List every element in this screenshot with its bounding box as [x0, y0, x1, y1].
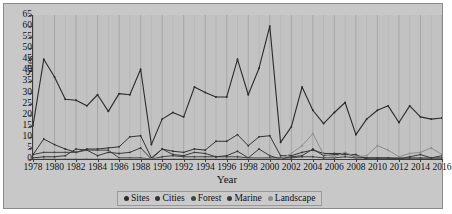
y-tick-mark	[29, 115, 32, 116]
legend-marker-icon	[124, 196, 129, 201]
data-point	[237, 134, 239, 136]
plot-area	[33, 15, 442, 159]
data-point	[183, 151, 185, 153]
legend-label: Sites	[131, 193, 149, 204]
x-tick-label: 1990	[153, 161, 172, 173]
data-point	[172, 112, 174, 114]
legend-marker-icon	[268, 196, 273, 201]
legend-item-forest[interactable]: Forest	[191, 193, 222, 204]
data-point	[194, 86, 196, 88]
data-point	[290, 126, 292, 128]
data-point	[64, 98, 66, 100]
data-point	[75, 148, 77, 150]
data-point	[355, 154, 357, 156]
data-point	[226, 155, 228, 157]
data-point	[312, 156, 314, 158]
data-point	[107, 110, 109, 112]
y-tick-mark	[29, 126, 32, 127]
data-point	[107, 149, 109, 151]
x-tick-mark	[420, 159, 421, 162]
data-point	[355, 134, 357, 136]
x-tick-mark	[33, 159, 34, 162]
y-tick-mark	[29, 59, 32, 60]
x-tick-mark	[270, 159, 271, 162]
data-point	[398, 156, 400, 158]
data-point	[420, 116, 422, 118]
x-tick-label: 2014	[411, 161, 430, 173]
legend-item-sites[interactable]: Sites	[124, 193, 149, 204]
data-point	[161, 148, 163, 150]
x-tick-mark	[119, 159, 120, 162]
legend-item-marine[interactable]: Marine	[227, 193, 261, 204]
data-point	[43, 58, 45, 60]
x-tick-mark	[377, 159, 378, 162]
data-point	[409, 156, 411, 158]
data-point	[301, 145, 303, 147]
x-tick-label: 2008	[346, 161, 365, 173]
data-point	[258, 148, 260, 150]
data-point	[161, 118, 163, 120]
x-tick-label: 2000	[260, 161, 279, 173]
data-point	[118, 93, 120, 95]
data-point	[366, 155, 368, 157]
legend-item-cities[interactable]: Cities	[155, 193, 184, 204]
data-point	[140, 68, 142, 70]
data-point	[312, 148, 314, 150]
data-point	[86, 105, 88, 107]
data-point	[64, 148, 66, 150]
data-point	[409, 105, 411, 107]
x-tick-label: 2004	[303, 161, 322, 173]
data-point	[344, 151, 346, 153]
data-point	[75, 99, 77, 101]
data-point	[64, 151, 66, 153]
data-point	[215, 140, 217, 142]
data-point	[118, 153, 120, 155]
data-point	[161, 156, 163, 158]
x-axis-title: Year	[4, 173, 450, 185]
x-tick-mark	[141, 159, 142, 162]
y-tick-mark	[29, 93, 32, 94]
data-point	[269, 135, 271, 137]
data-point	[226, 140, 228, 142]
x-tick-label: 1988	[131, 161, 150, 173]
data-point	[323, 123, 325, 125]
data-point	[129, 151, 131, 153]
data-point	[237, 58, 239, 60]
y-tick-mark	[29, 81, 32, 82]
legend-marker-icon	[155, 196, 160, 201]
legend-label: Marine	[234, 193, 261, 204]
legend-label: Forest	[198, 193, 222, 204]
data-point	[258, 67, 260, 69]
data-point	[280, 155, 282, 157]
data-point	[107, 151, 109, 153]
x-tick-mark	[184, 159, 185, 162]
data-point	[237, 156, 239, 158]
x-tick-label: 2016	[433, 161, 452, 173]
data-point	[118, 146, 120, 148]
data-point	[290, 153, 292, 155]
data-point	[150, 144, 152, 146]
x-tick-mark	[291, 159, 292, 162]
y-tick-mark	[29, 159, 32, 160]
data-point	[54, 144, 56, 146]
legend-item-landscape[interactable]: Landscape	[268, 193, 316, 204]
x-axis-line	[33, 159, 442, 160]
data-point	[54, 76, 56, 78]
data-point	[301, 151, 303, 153]
x-tick-mark	[98, 159, 99, 162]
y-tick-mark	[29, 26, 32, 27]
x-tick-label: 2010	[368, 161, 387, 173]
data-point	[97, 155, 99, 157]
x-tick-mark	[334, 159, 335, 162]
data-point	[333, 154, 335, 156]
chart-frame: Sites 05101520253035404550556065 1978198…	[3, 3, 443, 209]
x-tick-mark	[227, 159, 228, 162]
data-point	[280, 141, 282, 143]
data-point	[420, 151, 422, 153]
data-point	[194, 156, 196, 158]
data-point	[204, 149, 206, 151]
data-point	[75, 151, 77, 153]
data-point	[97, 94, 99, 96]
data-point	[97, 149, 99, 151]
